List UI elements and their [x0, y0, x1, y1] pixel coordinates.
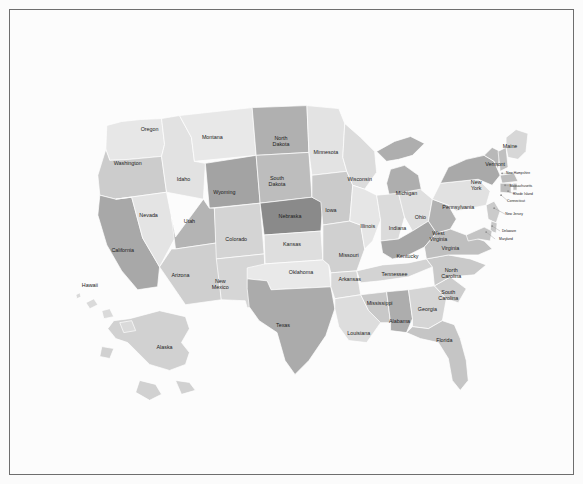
- state-wyoming[interactable]: [205, 155, 260, 208]
- state-tennessee[interactable]: [357, 259, 433, 283]
- map-frame-border: WashingtonOregonCaliforniaNevadaIdahoMon…: [9, 9, 574, 475]
- leader-dot-connecticut: [500, 194, 502, 196]
- leader-dot-massachusetts: [504, 184, 506, 186]
- state-rhode-island[interactable]: [513, 183, 517, 190]
- leader-dot-maryland: [485, 231, 487, 233]
- state-label-maryland: Maryland: [499, 237, 513, 241]
- state-minnesota[interactable]: [307, 106, 347, 176]
- leader-dot-rhode-island: [507, 190, 509, 192]
- state-arkansas[interactable]: [331, 271, 361, 299]
- state-label-delaware: Delaware: [502, 229, 516, 233]
- state-label-connecticut: Connecticut: [507, 199, 525, 203]
- state-maryland[interactable]: [466, 227, 492, 241]
- state-maine[interactable]: [506, 129, 528, 159]
- state-nebraska[interactable]: [260, 197, 323, 235]
- state-alaska[interactable]: [100, 311, 196, 401]
- leader-dot-new-hampshire: [501, 172, 503, 174]
- state-north-dakota[interactable]: [252, 106, 309, 156]
- state-massachusetts[interactable]: [500, 173, 518, 183]
- state-label-hawaii: Hawaii: [82, 282, 98, 288]
- state-florida[interactable]: [407, 321, 469, 391]
- state-texas[interactable]: [247, 279, 335, 375]
- leader-dot-delaware: [491, 225, 493, 227]
- state-alabama[interactable]: [387, 290, 413, 333]
- map-page: WashingtonOregonCaliforniaNevadaIdahoMon…: [0, 0, 583, 484]
- state-south-dakota[interactable]: [256, 152, 312, 203]
- state-label-new-jersey: New Jersey: [505, 212, 523, 216]
- state-new-jersey[interactable]: [486, 201, 500, 223]
- leader-line-connecticut: [501, 195, 508, 201]
- state-hawaii[interactable]: [76, 293, 136, 333]
- us-choropleth-map[interactable]: WashingtonOregonCaliforniaNevadaIdahoMon…: [10, 10, 573, 474]
- state-label-rhode-island: Rhode Island: [513, 192, 533, 196]
- state-kansas[interactable]: [264, 231, 323, 264]
- state-washington[interactable]: [106, 119, 165, 161]
- state-arizona[interactable]: [160, 243, 222, 305]
- state-colorado[interactable]: [214, 203, 264, 259]
- leader-dot-new-jersey: [493, 207, 495, 209]
- state-missouri[interactable]: [323, 221, 365, 273]
